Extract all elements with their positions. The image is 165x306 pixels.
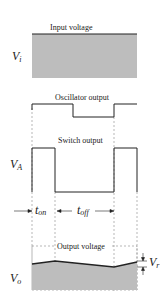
- output-voltage-label: Output voltage: [57, 242, 105, 251]
- ripple-marker: [137, 253, 147, 275]
- switch-output-label: Switch output: [58, 136, 103, 145]
- input-voltage-label: Input voltage: [50, 23, 93, 32]
- oscillator-output-label: Oscillator output: [55, 93, 110, 102]
- vr-symbol: Vr: [149, 255, 160, 270]
- ton-label: ton: [35, 203, 46, 217]
- va-symbol: VA: [10, 157, 22, 172]
- toff-label: toff: [77, 203, 91, 217]
- vo-symbol: Vo: [10, 271, 21, 286]
- input-voltage-area: [32, 34, 137, 78]
- vi-symbol: Vi: [12, 49, 22, 64]
- waveform-diagram: Input voltage Vi Oscillator output Switc…: [0, 0, 165, 306]
- oscillator-waveform: [32, 104, 137, 117]
- switch-waveform: [32, 148, 137, 192]
- timing-arrows: [14, 210, 114, 213]
